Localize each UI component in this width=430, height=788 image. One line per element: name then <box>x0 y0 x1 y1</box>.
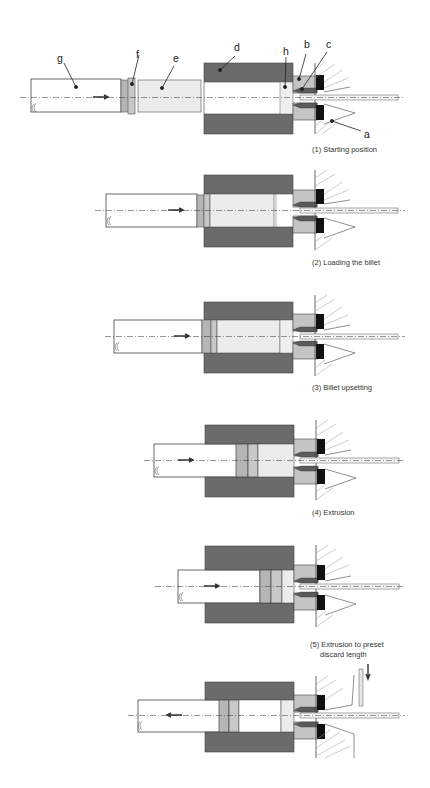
step-caption: (1) Starting position <box>312 145 377 154</box>
label-b: b <box>304 38 310 50</box>
extrusion-process-diagram: g f e d h b c a (1) Starting position <box>0 0 430 788</box>
step-3-billet-upsetting: (3) Billet upsetting <box>105 295 405 392</box>
step-4-extrusion: (4) Extrusion <box>144 420 405 517</box>
step-caption-line1: (5) Extrusion to preset <box>310 640 385 649</box>
container-top <box>204 63 293 82</box>
platen-taper <box>324 87 355 124</box>
label-e: e <box>173 52 179 64</box>
step-caption: (4) Extrusion <box>312 508 355 517</box>
label-c: c <box>326 38 331 50</box>
step-5-extrusion-to-discard: (5) Extrusion to preset discard length <box>155 545 405 659</box>
die-top <box>316 75 324 90</box>
step-6-shear-return <box>128 664 405 758</box>
label-h: h <box>283 45 289 57</box>
shear-down-arrow-icon <box>366 664 370 679</box>
label-d: d <box>234 41 240 53</box>
stem <box>31 79 121 112</box>
step-caption-line2: discard length <box>320 650 367 659</box>
label-a: a <box>364 128 370 140</box>
billet-discard <box>281 700 294 732</box>
step-caption: (3) Billet upsetting <box>312 383 372 392</box>
label-f: f <box>136 48 139 60</box>
step-2-loading-billet: (2) Loading the billet <box>95 170 405 267</box>
step-1-starting-position: g f e d h b c a (1) Starting position <box>20 38 405 154</box>
container-bottom <box>204 114 293 134</box>
billet <box>138 80 201 112</box>
die-bottom <box>316 105 324 120</box>
label-g: g <box>57 52 63 64</box>
shear-blade <box>359 669 363 706</box>
step-caption: (2) Loading the billet <box>312 258 381 267</box>
